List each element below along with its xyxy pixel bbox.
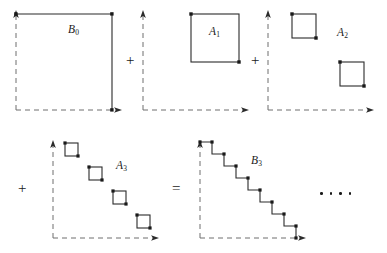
panel-a1 [140,10,249,113]
a3-square-2 [89,167,102,180]
label-b3-base: B [251,154,258,166]
a3-square-3-dot-top-left [111,189,114,192]
a3-square-4-dot-bottom-right [148,226,151,229]
panel-a3 [50,140,159,241]
label-a3-base: A [116,159,123,171]
label-a3: A3 [116,160,127,172]
a3-square-4 [137,215,150,228]
a3-square-1-dot-bottom-right [76,154,79,157]
ellipsis-dot [320,192,323,195]
continuation-ellipsis [320,192,351,195]
label-a2-base: A [337,26,344,38]
label-a2: A2 [337,27,348,39]
a1-dot-bottom-right [237,60,240,63]
ellipsis-dot [339,192,342,195]
label-a2-sub: 2 [344,31,348,40]
panel-a2 [265,10,374,113]
a3-square-2-dot-top-left [87,165,90,168]
a3-square-4-dot-top-left [135,213,138,216]
a3-square-2-dot-bottom-right [100,178,103,181]
label-a3-sub: 3 [123,164,127,173]
b3-staircase [200,142,296,238]
b0-dot-top-left [14,12,17,15]
a3-square-1-dot-top-left [63,141,66,144]
operator-plus-3: + [18,181,26,196]
label-b0-sub: 0 [75,28,79,37]
a3-square-3-dot-bottom-right [124,202,127,205]
ellipsis-dot [349,192,352,195]
a2-square-upper-dot-top-left [290,12,293,15]
label-a1: A1 [209,26,220,38]
a2-square-lower-dot-bottom-right [362,84,365,87]
a1-square [191,14,239,62]
label-b0: B0 [68,24,79,36]
b0-dot-top-right [110,12,113,15]
label-a1-sub: 1 [216,30,220,39]
decomposition-figure [0,0,387,253]
ellipsis-dot [330,192,333,195]
label-b3: B3 [251,155,262,167]
a2-square-upper [292,14,316,38]
label-a1-base: A [209,25,216,37]
a1-dot-top-left [189,12,192,15]
operator-plus-1: + [126,53,134,68]
label-b0-base: B [68,23,75,35]
operator-plus-2: + [251,53,259,68]
a3-square-1 [65,143,78,156]
label-b3-sub: 3 [258,159,262,168]
operator-equals: = [172,181,180,196]
a2-square-upper-dot-bottom-right [314,36,317,39]
a2-square-lower-dot-top-left [338,60,341,63]
a3-square-3 [113,191,126,204]
a2-square-lower [340,62,364,86]
b0-dot-bottom-right [110,108,113,111]
b0-square [16,14,112,110]
